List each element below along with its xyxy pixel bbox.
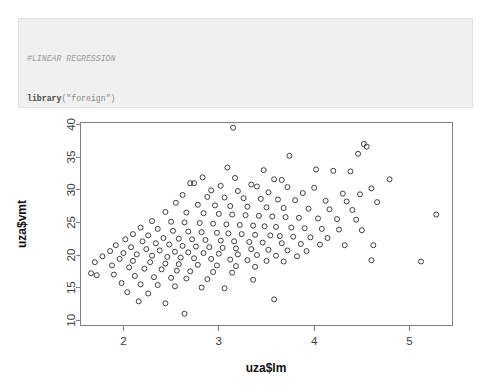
y-tick-label: 35 — [65, 151, 77, 164]
scatter-point — [100, 254, 105, 259]
scatter-point — [261, 168, 266, 173]
scatter-point — [272, 177, 277, 182]
scatter-point — [233, 246, 238, 251]
scatter-point — [369, 186, 374, 191]
scatter-point — [316, 216, 321, 221]
scatter-point — [254, 184, 259, 189]
scatter-point — [289, 225, 294, 230]
scatter-point — [161, 236, 166, 241]
scatter-point — [108, 249, 113, 254]
scatter-point — [302, 226, 307, 231]
scatter-point — [228, 257, 233, 262]
scatter-point — [285, 248, 290, 253]
code-snippet-block: #LINEAR REGRESSION library("foreign") uz… — [18, 18, 473, 108]
scatter-point — [258, 196, 263, 201]
scatter-point — [304, 249, 309, 254]
scatter-point — [230, 212, 235, 217]
scatter-point — [247, 239, 252, 244]
scatter-point — [136, 299, 141, 304]
scatter-point — [325, 236, 330, 241]
scatter-point — [293, 198, 298, 203]
scatter-point — [232, 239, 237, 244]
scatter-point — [266, 247, 271, 252]
scatter-point — [134, 252, 139, 257]
scatter-point — [335, 217, 340, 222]
scatter-point — [264, 258, 269, 263]
scatter-point — [225, 165, 230, 170]
scatter-point — [130, 258, 135, 263]
scatter-point — [184, 210, 189, 215]
scatter-point — [169, 275, 174, 280]
y-tick-label: 40 — [65, 118, 77, 131]
scatter-point — [375, 200, 380, 205]
scatter-point — [287, 153, 292, 158]
scatter-point — [167, 242, 172, 247]
scatter-point — [207, 245, 212, 250]
scatter-point — [176, 262, 181, 267]
scatter-point — [203, 237, 208, 242]
y-tick-label: 30 — [65, 183, 77, 196]
scatter-point — [146, 291, 151, 296]
scatter-point — [182, 311, 187, 316]
scatter-point — [182, 220, 187, 225]
scatter-point — [180, 243, 185, 248]
scatter-point — [188, 269, 193, 274]
scatter-point — [268, 233, 273, 238]
scatter-point — [279, 177, 284, 182]
x-tick-label: 5 — [406, 335, 412, 347]
plot-svg: 10152025303540 2345 uza$lm uza$vmt — [0, 110, 494, 387]
scatter-point — [211, 221, 216, 226]
scatter-point — [176, 236, 181, 241]
scatter-point — [254, 253, 259, 258]
scatter-point — [387, 177, 392, 182]
scatter-point — [172, 249, 177, 254]
scatter-point — [195, 262, 200, 267]
scatter-point — [245, 204, 250, 209]
scatter-point — [291, 234, 296, 239]
scatter-point — [285, 185, 290, 190]
code-library-args: ("foreign") — [61, 94, 115, 103]
scatter-point — [163, 209, 168, 214]
scatter-point — [144, 247, 149, 252]
scatter-point — [277, 234, 282, 239]
scatter-point — [224, 222, 229, 227]
scatter-point — [209, 256, 214, 261]
plot-box — [81, 123, 453, 326]
scatter-point — [180, 192, 185, 197]
scatter-point — [186, 229, 191, 234]
scatter-point — [233, 264, 238, 269]
scatter-point — [195, 202, 200, 207]
scatter-point — [295, 254, 300, 259]
scatter-point — [275, 197, 280, 202]
x-tick-label: 4 — [311, 335, 318, 347]
x-axis-ticks: 2345 — [120, 326, 413, 347]
scatter-point — [94, 273, 99, 278]
scatter-point — [314, 167, 319, 172]
scatter-point — [199, 230, 204, 235]
scatter-point — [121, 251, 126, 256]
scatter-point — [220, 245, 225, 250]
scatter-point — [218, 183, 223, 188]
scatter-point — [264, 205, 269, 210]
scatter-point — [88, 271, 93, 276]
scatter-point — [200, 175, 205, 180]
scatter-point — [281, 259, 286, 264]
y-axis-ticks: 10152025303540 — [65, 118, 81, 327]
scatter-point — [155, 283, 160, 288]
scatter-point — [230, 270, 235, 275]
scatter-point — [201, 251, 206, 256]
scatter-point — [155, 226, 160, 231]
scatter-point — [327, 207, 332, 212]
scatter-point — [231, 125, 236, 130]
scatter-point — [190, 237, 195, 242]
scatter-point — [109, 263, 114, 268]
x-tick-label: 2 — [120, 335, 126, 347]
scatter-point — [159, 267, 164, 272]
scatter-point — [342, 243, 347, 248]
scatter-point — [117, 256, 122, 261]
scatter-point — [251, 277, 256, 282]
scatter-point — [283, 215, 288, 220]
scatter-point — [125, 290, 130, 295]
scatter-point — [308, 235, 313, 240]
scatter-point — [130, 232, 135, 237]
